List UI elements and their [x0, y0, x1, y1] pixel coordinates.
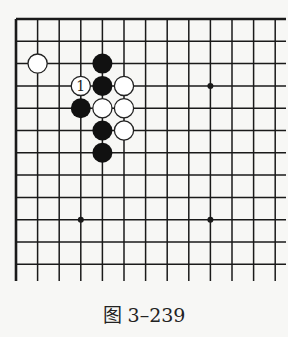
go-board: 1	[0, 0, 288, 300]
figure-caption: 图 3–239	[0, 300, 288, 327]
star-point	[207, 83, 213, 89]
white-stone	[114, 121, 133, 140]
white-stone	[114, 76, 133, 95]
white-stone	[93, 99, 112, 118]
black-stone	[92, 54, 112, 74]
black-stone	[92, 121, 112, 141]
white-stone	[28, 54, 47, 73]
black-stone	[92, 143, 112, 163]
star-point	[78, 217, 84, 223]
black-stone	[71, 98, 91, 118]
white-stone	[114, 99, 133, 118]
move-number-label: 1	[76, 78, 85, 94]
black-stone	[92, 76, 112, 96]
star-point	[207, 217, 213, 223]
